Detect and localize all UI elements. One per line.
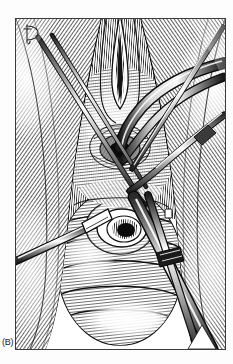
figure-title: Operative field illustration, panel B	[0, 0, 1, 1]
artwork-frame: D	[15, 18, 226, 350]
panel-label: (B)	[2, 337, 13, 347]
surgical-illustration	[16, 19, 225, 349]
figure-root: Operative field illustration, panel B (B…	[0, 0, 233, 364]
